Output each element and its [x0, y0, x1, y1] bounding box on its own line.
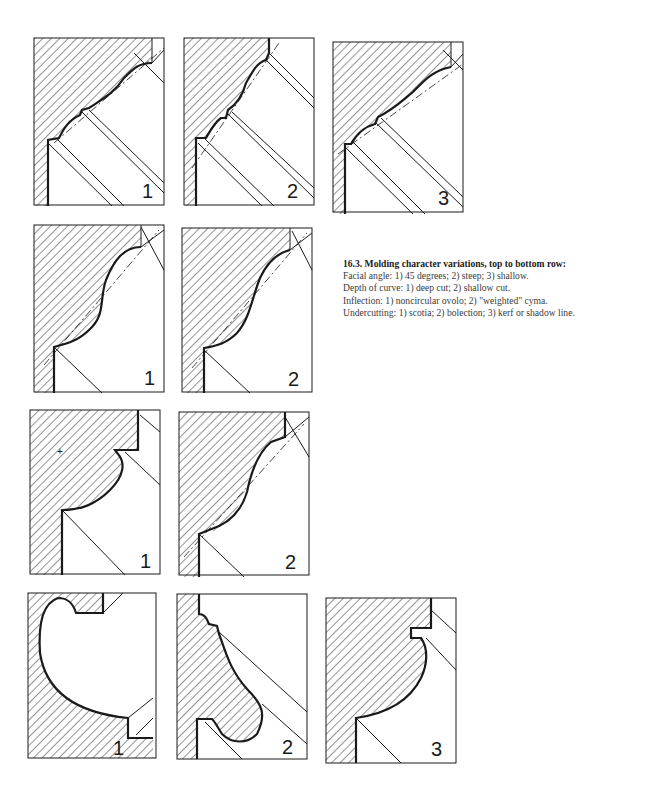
panel-label: 2	[282, 736, 293, 758]
panel-inflection-2: 2	[179, 412, 311, 580]
panel-label: 2	[288, 368, 299, 390]
panel-undercutting-3: 3	[326, 598, 458, 768]
panel-depth-of-curve-2: 2	[182, 228, 314, 396]
panel-inflection-1: + 1	[30, 410, 162, 578]
panel-facial-angle-1: 1	[34, 38, 166, 206]
caption-title: 16.3. Molding character variations, top …	[343, 258, 663, 270]
caption-line-inflection: Inflection: 1) noncircular ovolo; 2) "we…	[343, 295, 663, 307]
svg-text:+: +	[57, 446, 63, 457]
panel-undercutting-1: 1	[28, 593, 160, 763]
panel-label: 1	[142, 180, 153, 202]
figure-caption: 16.3. Molding character variations, top …	[343, 258, 663, 319]
caption-line-undercutting: Undercutting: 1) scotia; 2) bolection; 3…	[343, 307, 663, 319]
panel-facial-angle-3: 3	[333, 42, 465, 214]
panel-label: 1	[144, 367, 155, 389]
panel-depth-of-curve-1: 1	[34, 225, 166, 393]
panel-undercutting-2: 2	[177, 594, 309, 764]
panel-label: 2	[287, 180, 298, 202]
panel-label: 1	[140, 550, 151, 572]
panel-label: 3	[431, 738, 442, 760]
panel-label: 1	[113, 737, 124, 759]
caption-line-depth-of-curve: Depth of curve: 1) deep cut; 2) shallow …	[343, 282, 663, 294]
panel-label: 3	[438, 187, 449, 209]
caption-line-facial-angle: Facial angle: 1) 45 degrees; 2) steep; 3…	[343, 270, 663, 282]
panel-label: 2	[285, 551, 296, 573]
panel-facial-angle-2: 2	[184, 38, 316, 206]
